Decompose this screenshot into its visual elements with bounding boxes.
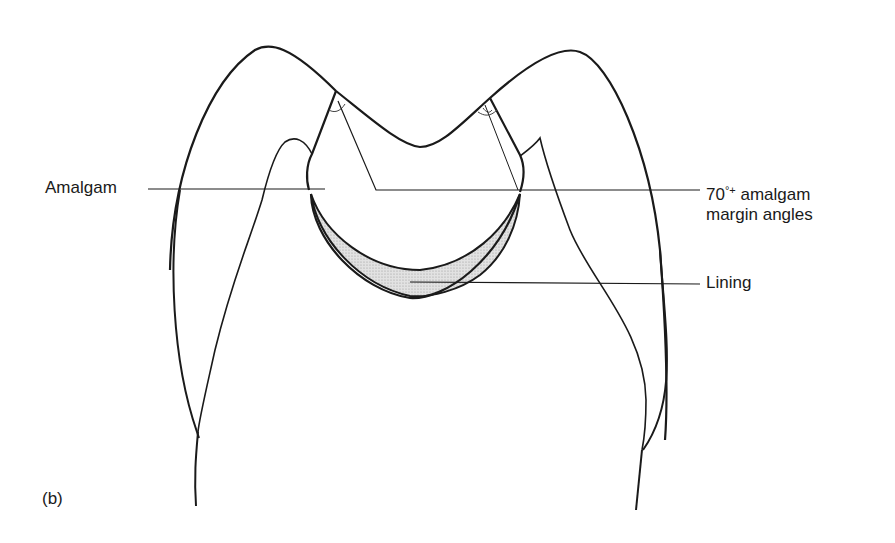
amalgam-label: Amalgam: [45, 178, 117, 198]
cavity-left-wall: [307, 91, 336, 190]
margin-angles-degree: °+: [725, 184, 736, 196]
diagram-canvas: Amalgam 70°+ amalgam margin angles Linin…: [0, 0, 895, 543]
amalgam-label-text: Amalgam: [45, 178, 117, 197]
panel-label-text: (b): [42, 489, 63, 508]
lining-label: Lining: [706, 273, 751, 293]
left-dentine-line: [198, 139, 312, 432]
left-root: [195, 432, 198, 506]
margin-angles-value: 70: [706, 185, 725, 204]
margin-angles-text-line2: margin angles: [706, 205, 813, 224]
left-outer-wall: [173, 190, 199, 438]
right-root: [636, 450, 642, 510]
right-outer-wall: [643, 250, 667, 450]
panel-label: (b): [42, 489, 63, 509]
lining-layer: [311, 194, 520, 296]
margin-angles-label: 70°+ amalgam margin angles: [706, 180, 813, 225]
tooth-diagram: [0, 0, 895, 543]
crown-outline: [170, 47, 666, 440]
right-dentine-line: [520, 138, 646, 450]
margin-angles-text: amalgam: [736, 185, 811, 204]
margin-angle-leader-left: [338, 101, 700, 190]
lining-label-text: Lining: [706, 273, 751, 292]
